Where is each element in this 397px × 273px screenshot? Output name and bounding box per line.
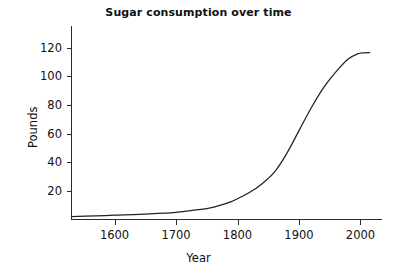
- y-tick-label: 120: [24, 41, 62, 55]
- y-axis-title: Pounds: [26, 107, 40, 148]
- axis-ticks: [67, 49, 361, 225]
- y-tick-label: 100: [24, 69, 62, 83]
- x-tick-label: 1700: [161, 228, 190, 242]
- data-series-line: [72, 53, 370, 217]
- y-tick-label: 40: [24, 155, 62, 169]
- x-tick-label: 1800: [223, 228, 252, 242]
- x-tick-label: 1600: [100, 228, 129, 242]
- x-tick-label: 2000: [346, 228, 375, 242]
- x-tick-label: 1900: [284, 228, 313, 242]
- chart-figure: Sugar consumption over time 204060801001…: [0, 0, 397, 273]
- x-axis-title: Year: [0, 251, 397, 265]
- y-tick-label: 20: [24, 184, 62, 198]
